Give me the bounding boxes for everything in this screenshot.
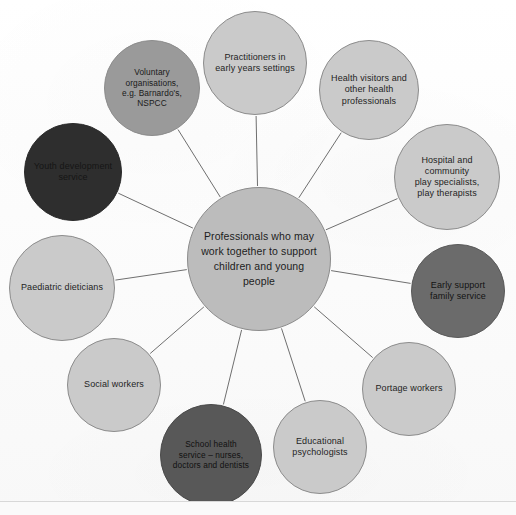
page-bottom-rule xyxy=(0,501,516,502)
node-voluntary-organisations-label: Voluntary organisations, e.g. Barnardo's… xyxy=(116,67,188,108)
page-bottom-band xyxy=(0,502,516,515)
connector-line-paediatric-dieticians xyxy=(115,270,186,281)
node-paediatric-dieticians[interactable]: Paediatric dieticians xyxy=(9,235,115,341)
node-portage-workers-label: Portage workers xyxy=(369,383,448,394)
node-youth-development-service-label: Youth development service xyxy=(28,161,118,184)
node-social-workers-label: Social workers xyxy=(78,379,150,390)
node-early-support-family-service-label: Early support family service xyxy=(424,280,492,303)
node-educational-psychologists[interactable]: Educational psychologists xyxy=(273,400,367,494)
connector-line-voluntary-organisations xyxy=(178,130,220,198)
node-portage-workers[interactable]: Portage workers xyxy=(362,342,456,436)
node-youth-development-service[interactable]: Youth development service xyxy=(24,123,122,221)
node-social-workers[interactable]: Social workers xyxy=(67,338,161,432)
connector-line-social-workers xyxy=(150,307,204,354)
node-educational-psychologists-label: Educational psychologists xyxy=(286,436,353,459)
node-early-support-family-service[interactable]: Early support family service xyxy=(411,244,505,338)
node-voluntary-organisations[interactable]: Voluntary organisations, e.g. Barnardo's… xyxy=(104,40,200,136)
node-health-visitors[interactable]: Health visitors and other health profess… xyxy=(319,40,419,140)
connector-line-hospital-play-specialists xyxy=(326,199,398,230)
connector-line-health-visitors xyxy=(299,133,341,198)
node-center-professionals[interactable]: Professionals who may work together to s… xyxy=(187,187,331,331)
node-hospital-play-specialists-label: Hospital and community play specialists,… xyxy=(409,155,486,200)
node-health-visitors-label: Health visitors and other health profess… xyxy=(325,73,413,107)
connector-line-educational-psychologists xyxy=(282,328,306,401)
node-center-label: Professionals who may work together to s… xyxy=(188,229,330,290)
node-practitioners-early-years-label: Practitioners in early years settings xyxy=(209,52,301,75)
connector-line-youth-development-service xyxy=(118,193,193,228)
diagram-canvas: Professionals who may work together to s… xyxy=(0,0,516,515)
node-school-health-service-label: School health service – nurses, doctors … xyxy=(167,439,255,470)
connector-line-early-support-family-service xyxy=(331,271,411,284)
connector-line-school-health-service xyxy=(223,330,241,405)
connector-line-portage-workers xyxy=(314,307,373,358)
node-hospital-play-specialists[interactable]: Hospital and community play specialists,… xyxy=(394,124,500,230)
node-practitioners-early-years[interactable]: Practitioners in early years settings xyxy=(203,11,307,115)
node-paediatric-dieticians-label: Paediatric dieticians xyxy=(15,282,109,293)
node-school-health-service[interactable]: School health service – nurses, doctors … xyxy=(160,404,262,506)
connector-line-practitioners-early-years xyxy=(256,116,257,186)
